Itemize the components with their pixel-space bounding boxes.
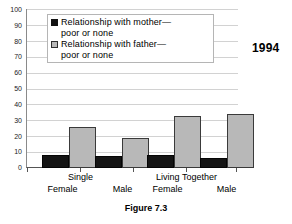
bar-mother-living-female[interactable] xyxy=(147,155,174,168)
y-tick-label: 70 xyxy=(1,53,22,60)
legend-item-mother: Relationship with mother— xyxy=(51,17,210,28)
legend-item-father: Relationship with father— xyxy=(51,39,210,50)
y-tick-label: 0 xyxy=(1,164,22,171)
y-tick-label: 60 xyxy=(1,69,22,76)
bar-father-living-female[interactable] xyxy=(174,116,201,168)
legend-label-father: Relationship with father— xyxy=(61,39,166,50)
y-tick-label: 90 xyxy=(1,22,22,29)
x-axis: Single Living Together Female Male Femal… xyxy=(27,170,237,198)
bar-mother-single-male[interactable] xyxy=(95,156,122,168)
y-tick-label: 80 xyxy=(1,38,22,45)
legend-label-mother-cont: poor or none xyxy=(61,28,113,39)
y-tick-label: 30 xyxy=(1,117,22,124)
legend-item-father-line2: poor or none xyxy=(51,50,210,61)
y-tick-label: 40 xyxy=(1,101,22,108)
bar-father-single-female[interactable] xyxy=(69,127,96,168)
legend-item-mother-line2: poor or none xyxy=(51,28,210,39)
bar-father-single-male[interactable] xyxy=(122,138,149,168)
x-group-label-living: Living Together xyxy=(139,172,234,182)
y-tick-label: 100 xyxy=(1,6,22,13)
year-annotation: 1994 xyxy=(252,41,280,55)
y-tick-label: 50 xyxy=(1,85,22,92)
legend-label-father-cont: poor or none xyxy=(61,50,113,61)
bar-mother-single-female[interactable] xyxy=(42,155,69,168)
legend-swatch-mother-icon xyxy=(51,19,58,26)
figure-caption: Figure 7.3 xyxy=(0,203,292,213)
legend-label-mother: Relationship with mother— xyxy=(61,17,171,28)
y-tick-label: 20 xyxy=(1,133,22,140)
bar-father-living-male[interactable] xyxy=(227,114,254,168)
x-group-label-single: Single xyxy=(33,172,128,182)
figure-7-3: 100 90 80 70 60 50 40 30 20 10 0 xyxy=(0,0,292,224)
x-tick-label-living-male: Male xyxy=(179,184,274,194)
legend-swatch-father-icon xyxy=(51,41,58,48)
legend: Relationship with mother— poor or none R… xyxy=(47,14,214,63)
bar-mother-living-male[interactable] xyxy=(200,158,227,168)
y-tick-label: 10 xyxy=(1,148,22,155)
